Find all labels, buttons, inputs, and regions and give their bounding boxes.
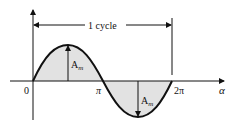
sine-wave-diagram: 1 cycle Am Am 0 π 2π α [0, 0, 235, 135]
two-pi-label: 2π [174, 85, 184, 96]
x-axis-label: α [219, 84, 225, 96]
cycle-label: 1 cycle [88, 20, 117, 31]
pi-label: π [96, 85, 102, 96]
origin-label: 0 [24, 85, 29, 96]
